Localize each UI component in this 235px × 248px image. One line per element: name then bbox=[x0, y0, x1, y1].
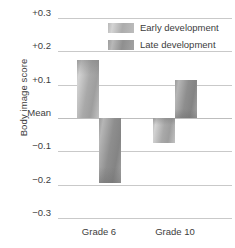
y-tick-label: +0.2 bbox=[5, 40, 51, 51]
legend-swatch-late-icon bbox=[108, 40, 134, 50]
y-tick-label: −0.3 bbox=[5, 207, 51, 218]
legend-swatch-early-icon bbox=[108, 23, 134, 33]
chart-legend: Early development Late development bbox=[108, 20, 232, 54]
legend-item-late: Late development bbox=[108, 37, 232, 52]
legend-label-early: Early development bbox=[140, 22, 219, 33]
y-tick-label: +0.3 bbox=[5, 7, 51, 18]
y-tick-label: −0.1 bbox=[5, 140, 51, 151]
legend-item-early: Early development bbox=[108, 20, 232, 35]
gridline-Mean bbox=[58, 118, 232, 119]
gridline-0.1 bbox=[58, 151, 232, 152]
legend-label-late: Late development bbox=[140, 39, 216, 50]
gridline-0.3 bbox=[58, 18, 232, 19]
body-image-score-bar-chart: Body image score +0.3+0.2+0.1Mean−0.1−0.… bbox=[0, 0, 235, 248]
x-tick-label-grade-10: Grade 10 bbox=[135, 226, 215, 237]
bar-grade-10-late bbox=[175, 80, 197, 118]
gridline-0.2 bbox=[58, 185, 232, 186]
bar-grade-6-early bbox=[77, 60, 99, 118]
bar-grade-10-early bbox=[153, 118, 175, 143]
gridline-0.3 bbox=[58, 218, 232, 219]
y-tick-label: −0.2 bbox=[5, 174, 51, 185]
bar-grade-6-late bbox=[99, 118, 121, 183]
y-tick-label: +0.1 bbox=[5, 74, 51, 85]
x-tick-label-grade-6: Grade 6 bbox=[59, 226, 139, 237]
y-tick-label: Mean bbox=[5, 107, 51, 118]
